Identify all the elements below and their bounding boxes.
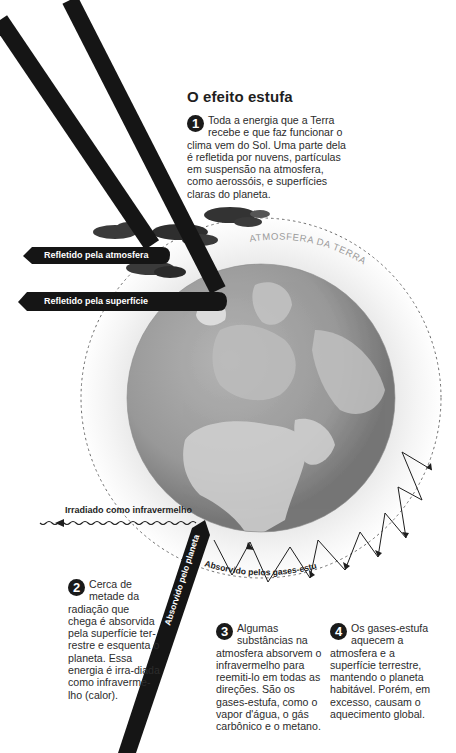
reflected-surface-label: Refletido pela superfície — [44, 296, 148, 306]
step-number-badge: 1 — [187, 115, 204, 132]
reflected-atmosphere-label: Refletido pela atmosfera — [44, 250, 149, 260]
step-4-text: 4 Os gases-estufa aquecem a atmosfera e … — [330, 622, 435, 720]
step-1-text: 1 Toda a energia que a Terra recebe e qu… — [187, 114, 347, 200]
step-number-badge: 4 — [330, 623, 347, 640]
radiated-infrared-label: Irradiado como infravermelho — [65, 505, 192, 515]
step-2-text: 2 Cerca de metade da radiação que chega … — [68, 578, 160, 701]
step-number-badge: 2 — [68, 579, 85, 596]
step-number-badge: 3 — [216, 623, 233, 640]
step-3-text: 3 Algumas substâncias na atmosfera absor… — [216, 622, 323, 733]
page-title: O efeito estufa — [187, 88, 293, 105]
